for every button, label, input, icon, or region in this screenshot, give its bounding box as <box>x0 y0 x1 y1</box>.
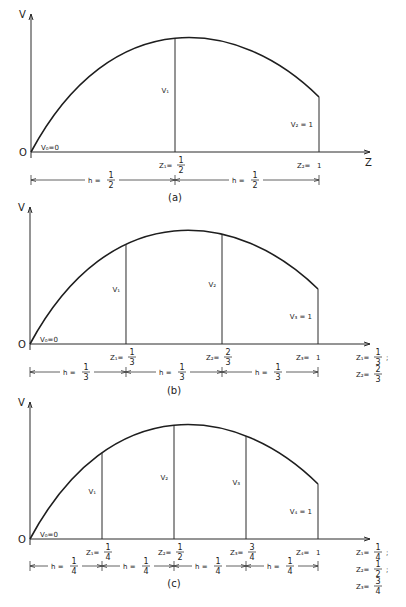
z-label-frac-num: 1 <box>129 348 134 357</box>
h-label-frac-num: 1 <box>275 363 280 372</box>
ordinate-label: V₃ <box>232 479 240 487</box>
z-label-frac-den: 4 <box>249 553 254 562</box>
v-curve <box>30 230 318 344</box>
h-label-frac-den: 4 <box>287 567 292 576</box>
z-label-name: Z₁= <box>86 549 100 557</box>
z-label-name: Z₂= <box>158 549 172 557</box>
h-label-frac-den: 2 <box>108 181 113 190</box>
side-note-sep: ; <box>386 354 388 362</box>
side-note-frac-den: 3 <box>375 375 380 384</box>
side-note-frac-num: 2 <box>375 365 380 374</box>
h-label: h = <box>63 369 76 377</box>
panel-label: (a) <box>168 192 182 203</box>
side-note-frac-num: 3 <box>375 577 380 586</box>
side-note-frac-num: 1 <box>375 348 380 357</box>
origin-label: O <box>19 147 27 158</box>
v-axis-label: V <box>18 397 25 408</box>
v0-label: V₀=0 <box>41 144 59 152</box>
ordinate-label: V₁ <box>161 87 169 95</box>
v-axis-label: V <box>19 9 26 20</box>
h-label-frac-num: 1 <box>287 557 292 566</box>
h-label-frac-den: 2 <box>252 181 257 190</box>
panel-label: (b) <box>167 385 181 396</box>
z-label-name: Z₂= <box>297 162 311 170</box>
z-label-value: 1 <box>316 549 320 557</box>
side-note-frac-num: 1 <box>375 543 380 552</box>
ordinate-label: V₁ <box>88 488 96 496</box>
h-label-frac-num: 1 <box>215 557 220 566</box>
z-label-name: Z₃= <box>230 549 244 557</box>
side-note-frac-den: 4 <box>375 587 380 596</box>
z-label-frac-den: 4 <box>105 553 110 562</box>
h-label-frac-den: 3 <box>83 373 88 382</box>
ordinate-label: V₂ <box>208 281 216 289</box>
h-label: h = <box>123 563 136 571</box>
side-note-name: Z₁= <box>356 354 370 362</box>
z-label-frac-num: 1 <box>178 156 183 165</box>
origin-label: O <box>18 534 26 545</box>
h-label-frac-den: 4 <box>215 567 220 576</box>
v0-label: V₀=0 <box>40 531 58 539</box>
h-label-frac-num: 1 <box>143 557 148 566</box>
ordinate-label: V₄ = 1 <box>290 508 312 516</box>
h-label-frac-num: 1 <box>179 363 184 372</box>
h-label: h = <box>88 177 101 185</box>
ordinate-label: V₃ = 1 <box>290 313 312 321</box>
z-label-name: Z₄= <box>296 549 310 557</box>
z-axis-label: Z <box>365 157 372 168</box>
z-label-value: 1 <box>316 354 320 362</box>
z-label-name: Z₁= <box>110 354 124 362</box>
ordinate-label: V₂ <box>160 474 168 482</box>
ordinate-label: V₂ = 1 <box>291 121 313 129</box>
ordinate-label: V₁ <box>112 286 120 294</box>
z-label-name: Z₂= <box>206 354 220 362</box>
z-label-frac-num: 3 <box>249 543 254 552</box>
z-label-name: Z₁= <box>159 162 173 170</box>
h-label-frac-num: 1 <box>71 557 76 566</box>
z-label-frac-den: 2 <box>177 553 182 562</box>
side-note-sep: ; <box>386 549 388 557</box>
side-note-name: Z₃= <box>356 583 370 591</box>
h-label: h = <box>159 369 172 377</box>
origin-label: O <box>18 339 26 350</box>
z-label-frac-den: 2 <box>178 166 183 175</box>
figure-canvas: VZOV₀=0V₁V₂ = 1Z₁=12Z₂=1h =12h =12(a)VOV… <box>0 0 406 607</box>
z-label-frac-num: 1 <box>105 543 110 552</box>
h-label-frac-num: 1 <box>108 171 113 180</box>
h-label: h = <box>51 563 64 571</box>
side-note-name: Z₁= <box>356 549 370 557</box>
z-label-frac-den: 3 <box>225 358 230 367</box>
h-label: h = <box>195 563 208 571</box>
h-label-frac-num: 1 <box>252 171 257 180</box>
side-note-name: Z₂= <box>356 371 370 379</box>
v0-label: V₀=0 <box>40 336 58 344</box>
v-axis-label: V <box>18 202 25 213</box>
h-label-frac-den: 3 <box>275 373 280 382</box>
z-label-value: 1 <box>317 162 321 170</box>
side-note-frac-num: 1 <box>375 560 380 569</box>
z-label-name: Z₃= <box>296 354 310 362</box>
h-label: h = <box>255 369 268 377</box>
h-label: h = <box>232 177 245 185</box>
z-label-frac-den: 3 <box>129 358 134 367</box>
side-note-name: Z₂= <box>356 566 370 574</box>
h-label: h = <box>267 563 280 571</box>
h-label-frac-num: 1 <box>83 363 88 372</box>
h-label-frac-den: 4 <box>143 567 148 576</box>
h-label-frac-den: 4 <box>71 567 76 576</box>
side-note-sep: ; <box>386 566 388 574</box>
h-label-frac-den: 3 <box>179 373 184 382</box>
z-label-frac-num: 1 <box>177 543 182 552</box>
panel-label: (c) <box>167 578 180 589</box>
z-label-frac-num: 2 <box>225 348 230 357</box>
